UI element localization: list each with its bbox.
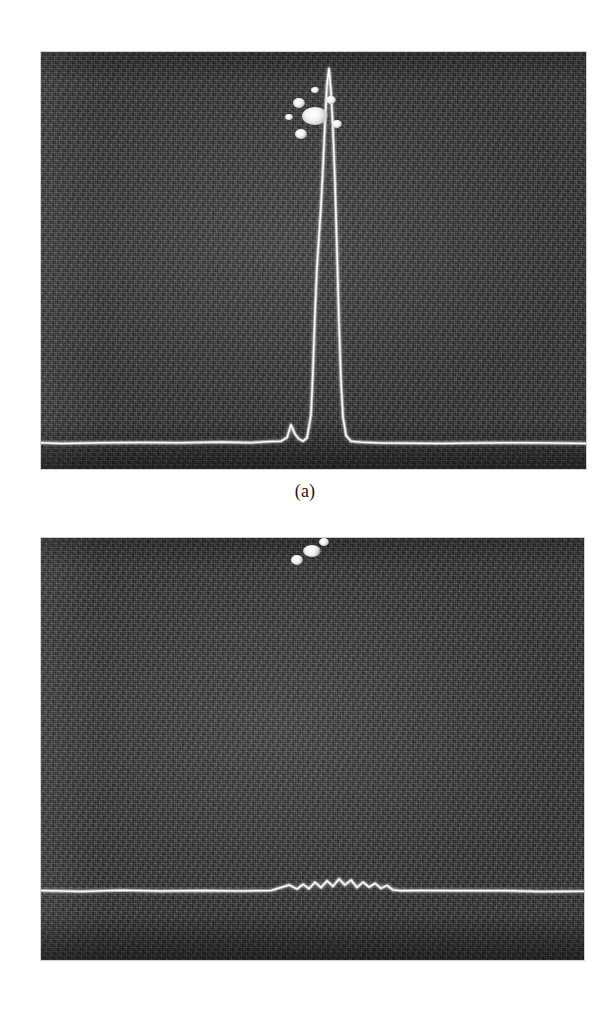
photo-plate-b — [41, 538, 584, 960]
photo-plate-a — [41, 52, 586, 469]
oscilloscope-trace-b — [41, 538, 584, 960]
panel-caption-a: (a) — [0, 481, 610, 502]
figure-root: (a) — [0, 0, 610, 1026]
figure-panel-b: (b) — [0, 513, 610, 1026]
figure-panel-a: (a) — [0, 0, 610, 513]
oscilloscope-trace-a — [41, 52, 586, 469]
trace-halo-a — [41, 69, 586, 444]
